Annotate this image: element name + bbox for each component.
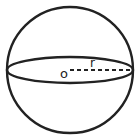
sphere-diagram: o r xyxy=(0,0,136,139)
radius-label: r xyxy=(90,56,95,70)
center-label: o xyxy=(60,66,68,81)
